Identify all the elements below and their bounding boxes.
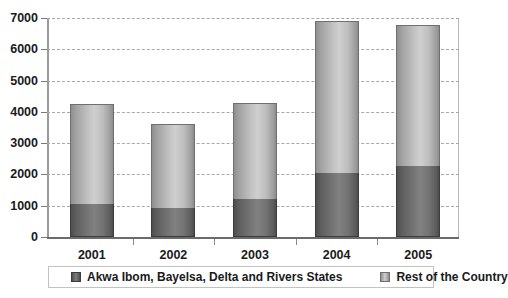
x-axis-tick-label: 2001 [78,248,106,262]
bar-segment-rest-of-country [70,104,114,204]
chart-legend: Akwa Ibom, Bayelsa, Delta and Rivers Sta… [48,266,434,288]
y-axis-tick [41,49,47,50]
legend-label: Rest of the Country [396,270,507,284]
gridline [47,18,459,19]
x-axis-tick [133,239,134,245]
y-axis-tick-label: 3000 [10,136,38,150]
y-axis-tick [41,206,47,207]
bar-segment-akwa-ibom-bayelsa-delta-rivers [70,204,114,237]
y-axis-tick-label: 2000 [10,167,38,181]
y-axis-tick [41,81,47,82]
y-axis-tick-label: 5000 [10,74,38,88]
bar-segment-akwa-ibom-bayelsa-delta-rivers [233,199,277,237]
bar-segment-rest-of-country [396,25,440,166]
y-axis-tick [41,18,47,19]
light-swatch-icon [380,272,390,282]
bar-segment-rest-of-country [233,103,277,199]
y-axis-tick [41,143,47,144]
legend-label: Akwa Ibom, Bayelsa, Delta and Rivers Sta… [87,270,342,284]
y-axis-tick-label: 4000 [10,105,38,119]
x-axis-tick [214,239,215,245]
legend-item-rest-of-the-country: Rest of the Country [380,270,507,284]
bar-column-2002 [151,124,195,237]
x-axis-tick [377,239,378,245]
bar-segment-akwa-ibom-bayelsa-delta-rivers [396,166,440,237]
bar-column-2001 [70,104,114,237]
plot-canvas: 01000200030004000500060007000 2001200220… [47,18,459,239]
bar-segment-akwa-ibom-bayelsa-delta-rivers [151,208,195,237]
y-axis-tick [41,112,47,113]
x-axis-tick-label: 2004 [323,248,351,262]
x-axis-tick-label: 2002 [159,248,187,262]
x-axis-tick [296,239,297,245]
y-axis-tick-label: 7000 [10,11,38,25]
y-axis-tick-label: 1000 [10,199,38,213]
y-axis-tick [41,174,47,175]
plot-area: 01000200030004000500060007000 2001200220… [47,18,459,239]
x-axis-line [47,237,459,239]
bar-segment-rest-of-country [315,21,359,173]
bar-segment-rest-of-country [151,124,195,208]
bar-column-2004 [315,21,359,237]
bar-column-2005 [396,25,440,237]
y-axis-tick-label: 6000 [10,42,38,56]
legend-item-akwa-ibom-bayelsa-delta-rivers: Akwa Ibom, Bayelsa, Delta and Rivers Sta… [71,270,342,284]
y-axis-tick-label: 0 [31,230,38,244]
x-axis-tick-label: 2003 [241,248,269,262]
bar-segment-akwa-ibom-bayelsa-delta-rivers [315,173,359,237]
x-axis-tick-label: 2005 [404,248,432,262]
dark-swatch-icon [71,272,81,282]
bar-column-2003 [233,103,277,237]
